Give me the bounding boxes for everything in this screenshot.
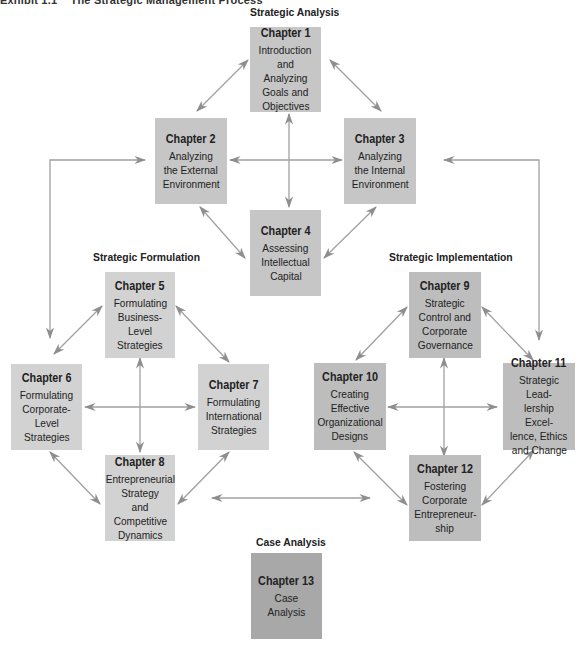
chapter-3-line-3: Environment (352, 177, 409, 191)
arrow-ch6-ch8 (50, 452, 100, 504)
chapter-3-line-1: Analyzing (358, 149, 402, 163)
chapter-13-title: Chapter 13 (259, 574, 315, 588)
chapter-8-line-4: Dynamics (118, 528, 162, 542)
arrow-ch5-ch6 (54, 306, 102, 354)
chapter-13-line-1: Case (275, 591, 299, 605)
chapter-8-line-1: Entrepreneurial (105, 472, 174, 486)
chapter-5-line-3: Strategies (117, 338, 163, 352)
arrow-ch1-ch2 (197, 60, 248, 111)
chapter-1-line-1: Introduction (259, 43, 312, 57)
chapter-7-title: Chapter 7 (209, 378, 259, 392)
chapter-2-line-2: the External (164, 163, 218, 177)
chapter-7-line-3: Strategies (211, 423, 257, 437)
chapter-9-line-4: Governance (417, 338, 472, 352)
chapter-1-line-2: and Analyzing (257, 57, 314, 85)
chapter-12-line-4: ship (436, 521, 455, 535)
chapter-10-line-4: Designs (332, 429, 369, 443)
chapter-8-line-2: Strategy and (112, 486, 168, 514)
chapter-11-title: Chapter 11 (511, 356, 566, 370)
chapter-4-line-3: Capital (270, 269, 302, 283)
chapter-6-line-4: Strategies (24, 430, 70, 444)
chapter-1-box[interactable]: Chapter 1 Introduction and Analyzing Goa… (250, 27, 321, 112)
chapter-1-title: Chapter 1 (261, 26, 311, 40)
chapter-10-box[interactable]: Chapter 10 Creating Effective Organizati… (314, 363, 386, 450)
section-label-formulation: Strategic Formulation (93, 251, 200, 263)
chapter-9-title: Chapter 9 (420, 279, 470, 293)
chapter-4-box[interactable]: Chapter 4 Assessing Intellectual Capital (250, 210, 321, 296)
chapter-2-box[interactable]: Chapter 2 Analyzing the External Environ… (155, 118, 227, 204)
chapter-3-title: Chapter 3 (355, 132, 405, 146)
chapter-2-line-3: Environment (163, 177, 220, 191)
chapter-6-box[interactable]: Chapter 6 Formulating Corporate- Level S… (11, 364, 82, 450)
chapter-4-title: Chapter 4 (261, 224, 311, 238)
chapter-7-line-1: Formulating (207, 395, 260, 409)
chapter-6-title: Chapter 6 (22, 371, 72, 385)
arrow-ch1-ch3 (330, 60, 381, 111)
arrow-ch5-ch7 (176, 306, 229, 362)
arrow-ch3-ch4 (324, 207, 376, 258)
chapter-10-title: Chapter 10 (322, 370, 378, 384)
chapter-5-line-1: Formulating (113, 296, 166, 310)
chapter-11-box[interactable]: Chapter 11 Strategic Lead- lership Excel… (503, 363, 575, 450)
chapter-12-title: Chapter 12 (417, 462, 473, 476)
arrow-ch9-ch10 (356, 307, 407, 360)
chapter-9-line-3: Corporate (422, 324, 467, 338)
section-label-implementation: Strategic Implementation (389, 251, 513, 263)
section-label-case: Case Analysis (256, 536, 326, 548)
chapter-8-line-3: Competitive (113, 514, 166, 528)
chapter-13-line-2: Analysis (268, 605, 306, 619)
chapter-13-box[interactable]: Chapter 13 Case Analysis (251, 553, 322, 639)
chapter-1-line-3: Goals and (262, 85, 308, 99)
chapter-11-line-4: and Change (511, 443, 566, 457)
chapter-2-title: Chapter 2 (166, 132, 216, 146)
arrow-ch2-ch4 (200, 207, 245, 258)
chapter-10-line-1: Creating (331, 387, 369, 401)
chapter-6-line-2: Corporate- (22, 402, 70, 416)
chapter-12-line-2: Corporate (422, 493, 467, 507)
chapter-4-line-2: Intellectual (261, 255, 309, 269)
chapter-5-line-2: Business-Level (112, 310, 168, 338)
arrow-ch9-ch11 (482, 307, 533, 360)
chapter-6-line-3: Level (34, 416, 58, 430)
chapter-11-line-2: lership Excel- (510, 401, 568, 429)
arrow-ch7-ch8 (178, 452, 229, 504)
chapter-10-line-3: Organizational (317, 415, 382, 429)
chapter-3-box[interactable]: Chapter 3 Analyzing the Internal Environ… (344, 118, 416, 204)
chapter-9-box[interactable]: Chapter 9 Strategic Control and Corporat… (409, 272, 481, 358)
arrow-ch11-ch12 (482, 450, 534, 505)
chapter-11-line-3: lence, Ethics (510, 429, 567, 443)
chapter-8-title: Chapter 8 (115, 455, 165, 469)
chapter-8-box[interactable]: Chapter 8 Entrepreneurial Strategy and C… (105, 455, 175, 541)
chapter-12-box[interactable]: Chapter 12 Fostering Corporate Entrepren… (409, 455, 481, 541)
chapter-12-line-1: Fostering (424, 479, 466, 493)
chapter-12-line-3: Entrepreneur- (414, 507, 476, 521)
chapter-11-line-1: Strategic Lead- (510, 373, 568, 401)
chapter-3-line-2: the Internal (355, 163, 406, 177)
arrow-ch10-ch12 (354, 452, 407, 505)
chapter-6-line-1: Formulating (20, 388, 73, 402)
chapter-7-box[interactable]: Chapter 7 Formulating International Stra… (198, 364, 269, 450)
chapter-7-line-2: International (206, 409, 262, 423)
chapter-2-line-1: Analyzing (169, 149, 213, 163)
chapter-5-title: Chapter 5 (115, 279, 165, 293)
chapter-9-line-2: Control and (419, 310, 471, 324)
chapter-10-line-2: Effective (331, 401, 370, 415)
chapter-4-line-1: Assessing (262, 241, 308, 255)
chapter-9-line-1: Strategic (425, 296, 465, 310)
chapter-5-box[interactable]: Chapter 5 Formulating Business-Level Str… (105, 272, 175, 358)
section-label-analysis: Strategic Analysis (250, 6, 339, 18)
chapter-1-line-4: Objectives (262, 99, 309, 113)
